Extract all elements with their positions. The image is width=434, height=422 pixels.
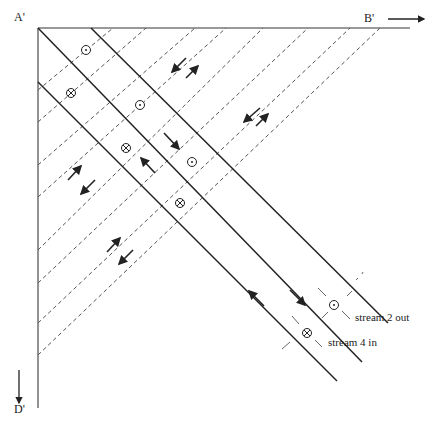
into-page-cross-icon — [303, 329, 312, 338]
flow-arrow-icon — [141, 158, 155, 173]
dashed-line — [38, 28, 113, 90]
tick-mark — [282, 342, 290, 349]
dashed-line — [38, 28, 350, 323]
into-page-cross-icon — [176, 199, 185, 208]
stream-symbols — [67, 46, 339, 338]
flow-arrow-icon — [107, 238, 120, 252]
out-of-page-dot-icon — [82, 46, 91, 55]
dashed-flow-lines — [38, 28, 380, 355]
into-page-cross-icon — [122, 144, 131, 153]
out-of-page-dot-icon — [136, 101, 145, 110]
flow-arrow-icon — [249, 291, 264, 306]
tick-mark — [318, 288, 326, 296]
tick-mark — [347, 291, 352, 296]
out-of-page-dot-icon — [188, 158, 197, 167]
solid-line — [38, 28, 362, 362]
out-of-page-dot-icon — [330, 301, 339, 310]
solid-line — [91, 28, 388, 323]
dashed-line — [38, 28, 195, 165]
flow-arrow-icon — [164, 133, 179, 149]
flow-arrow-icon — [119, 250, 133, 264]
tick-mark — [356, 278, 358, 280]
stream-diagram — [0, 0, 434, 422]
dashed-line — [38, 28, 146, 122]
flow-arrow-icon — [186, 66, 198, 78]
label-corner-a: A' — [14, 10, 25, 25]
tick-mark — [292, 316, 299, 324]
dashed-line — [38, 28, 380, 355]
tick-mark — [342, 311, 350, 319]
solid-boundary-lines — [38, 28, 388, 381]
tick-mark — [322, 312, 328, 318]
flow-arrow-icon — [81, 180, 95, 194]
into-page-cross-icon — [67, 89, 76, 98]
label-stream-2-out: stream 2 out — [355, 311, 409, 323]
label-corner-b: B' — [364, 11, 374, 26]
tick-mark — [315, 340, 322, 347]
dashed-line — [38, 28, 308, 283]
label-stream-4-in: stream 4 in — [328, 336, 377, 348]
tick-mark — [362, 272, 363, 274]
solid-line — [38, 82, 337, 381]
label-corner-d: D' — [14, 402, 25, 417]
flow-arrow-icon — [290, 290, 305, 305]
